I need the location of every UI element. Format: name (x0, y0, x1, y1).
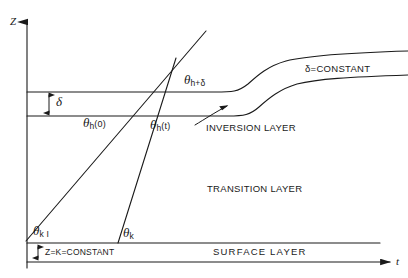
theta-h-zero-arg: (0) (94, 119, 106, 129)
lower-interface-curve (27, 75, 408, 116)
surface-layer-label: SURFACE LAYER (213, 247, 307, 257)
theta-h-t-label: θh(t) (150, 118, 170, 132)
theta-k-sub: k (129, 231, 133, 241)
inversion-layer-label: INVERSION LAYER (206, 123, 296, 133)
theta-ki-line (26, 31, 206, 241)
transition-layer-label: TRANSITION LAYER (207, 184, 302, 194)
theta-ki-label: θk I (33, 224, 49, 238)
z-k-constant-label: Z=K=CONSTANT (45, 248, 114, 257)
theta-k-line (118, 58, 176, 243)
figure-root: Z t δ θh(0) θh(t) θh+δ θk I θk δ=CONSTAN… (0, 0, 408, 278)
theta-h-plus-delta-label: θh+δ (184, 73, 205, 87)
z-axis-label: Z (10, 16, 16, 27)
theta-k-label: θk (123, 226, 134, 240)
delta-constant-label: δ=CONSTANT (305, 64, 370, 74)
theta-h-zero-label: θh(0) (83, 116, 106, 130)
diagram-canvas (0, 0, 408, 278)
delta-thickness-label: δ (56, 95, 62, 108)
theta-h-plus-delta-sub: h+δ (190, 78, 205, 88)
theta-ki-sub: k I (39, 229, 49, 239)
t-axis-label: t (396, 256, 399, 267)
theta-h-t-arg: (t) (161, 121, 170, 131)
